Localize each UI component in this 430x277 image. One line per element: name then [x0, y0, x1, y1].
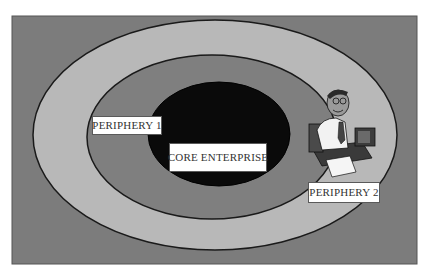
- monitor-screen: [358, 131, 370, 143]
- periphery-1-label: PERIPHERY 1: [92, 116, 162, 135]
- diagram-svg: [0, 0, 430, 277]
- core-enterprise-label: CORE ENTERPRISE: [169, 143, 267, 172]
- diagram-canvas: PERIPHERY 1 CORE ENTERPRISE PERIPHERY 2: [0, 0, 430, 277]
- periphery-2-label: PERIPHERY 2: [308, 182, 380, 203]
